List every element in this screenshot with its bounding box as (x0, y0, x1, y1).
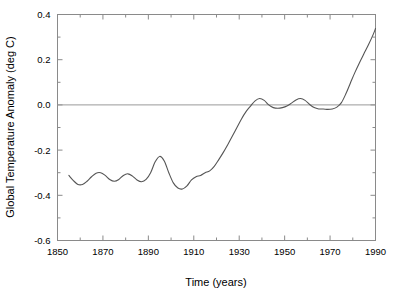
x-tick-label: 1850 (47, 246, 68, 257)
x-tick-label: 1870 (92, 246, 113, 257)
chart-figure: -0.6-0.4-0.20.00.20.4 185018701890191019… (0, 0, 408, 294)
y-tick-label: -0.4 (34, 190, 50, 201)
y-axis-title: Global Temperature Anomaly (deg C) (4, 36, 16, 217)
y-tick-label: 0.2 (37, 54, 50, 65)
y-tick-label: -0.2 (34, 145, 50, 156)
line-chart-svg: -0.6-0.4-0.20.00.20.4 185018701890191019… (0, 0, 408, 294)
x-tick-label: 1970 (320, 246, 341, 257)
x-tick-label: 1910 (183, 246, 204, 257)
y-tick-label: -0.6 (34, 235, 50, 246)
y-tick-label: 0.0 (37, 99, 50, 110)
x-axis-title: Time (years) (185, 276, 246, 288)
x-tick-label: 1950 (274, 246, 295, 257)
x-tick-label: 1990 (365, 246, 386, 257)
y-tick-label: 0.4 (37, 9, 50, 20)
x-tick-label: 1890 (138, 246, 159, 257)
x-tick-label: 1930 (229, 246, 250, 257)
